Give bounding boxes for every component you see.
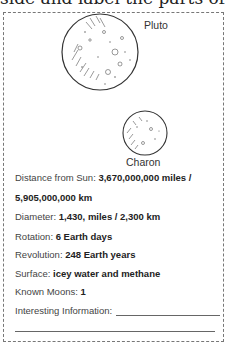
pluto-illustration <box>60 12 140 92</box>
distance-value: 3,670,000,000 miles / <box>98 172 191 183</box>
distance-line: Distance from Sun: 3,670,000,000 miles / <box>15 172 191 183</box>
planet-card: Pluto Charon Distance from Sun: 3,670,00… <box>3 12 224 342</box>
header-partial-text: side and label the parts of the <box>0 0 229 8</box>
pluto-label: Pluto <box>144 19 168 31</box>
distance-line-2: 5,905,000,000 km <box>15 192 92 203</box>
rotation-value: 6 Earth days <box>56 231 113 242</box>
writing-line[interactable] <box>15 331 215 332</box>
charon-label: Charon <box>126 156 160 168</box>
revolution-line: Revolution: 248 Earth years <box>15 249 135 260</box>
revolution-value: 248 Earth years <box>65 249 135 260</box>
distance-label: Distance from Sun: <box>15 172 96 183</box>
diameter-label: Diameter: <box>15 211 56 222</box>
rotation-line: Rotation: 6 Earth days <box>15 231 112 242</box>
interesting-blank[interactable] <box>116 315 220 316</box>
surface-value: icey water and methane <box>53 268 160 279</box>
diameter-value: 1,430, miles / 2,300 km <box>59 211 160 222</box>
diameter-line: Diameter: 1,430, miles / 2,300 km <box>15 211 160 222</box>
surface-label: Surface: <box>15 268 50 279</box>
charon-illustration <box>121 109 169 157</box>
interesting-line: Interesting Information: <box>15 305 220 316</box>
revolution-label: Revolution: <box>15 249 63 260</box>
interesting-label: Interesting Information: <box>15 305 112 316</box>
surface-line: Surface: icey water and methane <box>15 268 160 279</box>
moons-value: 1 <box>80 286 85 297</box>
moons-label: Known Moons: <box>15 286 78 297</box>
moons-line: Known Moons: 1 <box>15 286 86 297</box>
rotation-label: Rotation: <box>15 231 53 242</box>
distance-value-km: 5,905,000,000 km <box>15 192 92 203</box>
